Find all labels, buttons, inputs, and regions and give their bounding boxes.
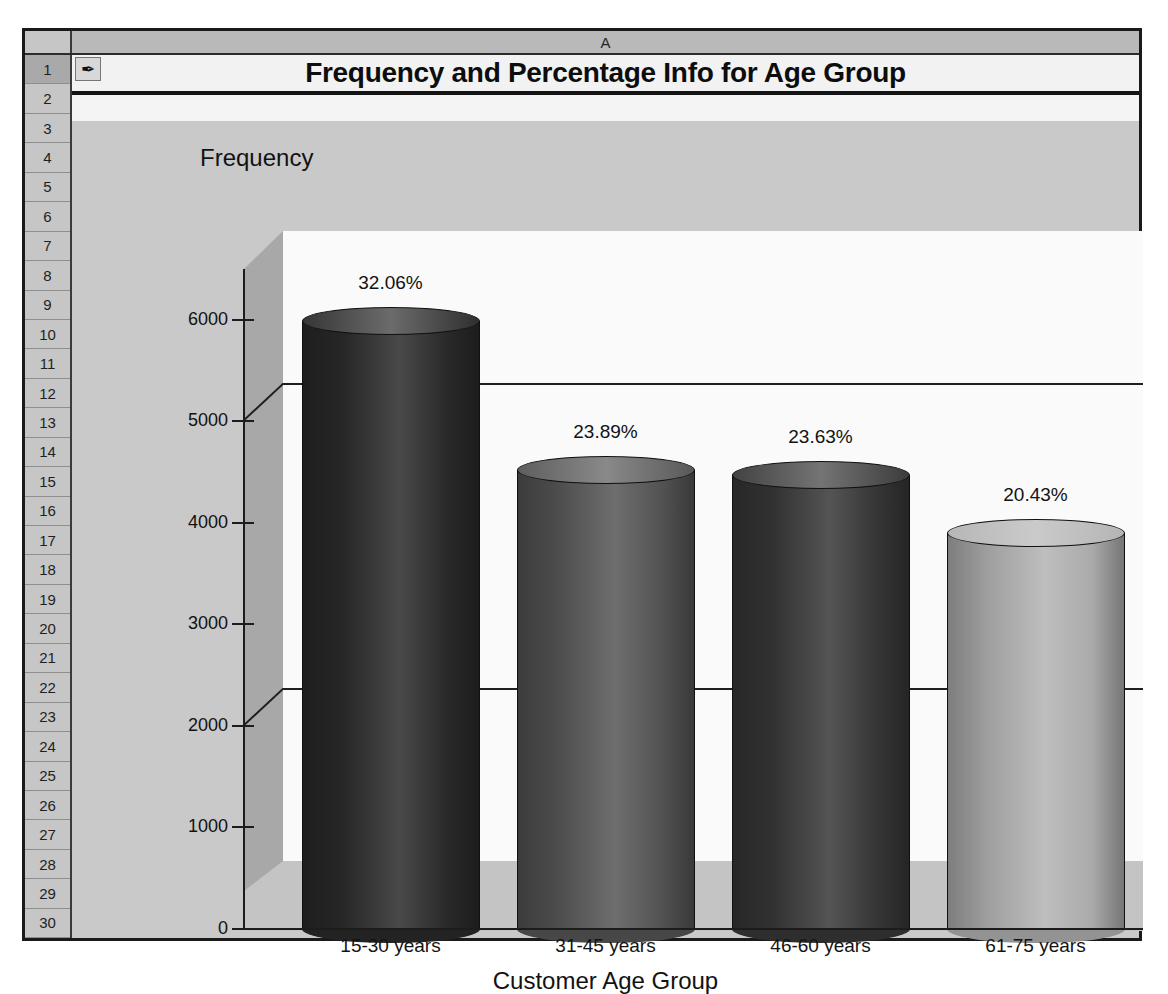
row-header-4[interactable]: 4	[25, 143, 70, 172]
blank-row	[72, 95, 1139, 121]
page-title: Frequency and Percentage Info for Age Gr…	[305, 57, 906, 89]
y-tick-label-3000: 3000	[166, 614, 228, 632]
bar-data-label: 23.63%	[788, 427, 852, 446]
row-header-3[interactable]: 3	[25, 114, 70, 143]
row-header-27[interactable]: 27	[25, 820, 70, 849]
bar-body	[947, 533, 1125, 929]
row-header-22[interactable]: 22	[25, 673, 70, 702]
x-tick-label-1: 31-45 years	[506, 936, 706, 955]
row-header-9[interactable]: 9	[25, 291, 70, 320]
bar-15-30-years[interactable]: 32.06%	[302, 307, 480, 929]
row-header-23[interactable]: 23	[25, 703, 70, 732]
bar-body	[302, 321, 480, 929]
gridline-connector-5000	[243, 383, 284, 423]
row-header-25[interactable]: 25	[25, 762, 70, 791]
row-header-14[interactable]: 14	[25, 438, 70, 467]
y-axis-title: Frequency	[200, 146, 313, 170]
row-header-10[interactable]: 10	[25, 320, 70, 349]
y-axis-line	[243, 269, 245, 929]
row-header-16[interactable]: 16	[25, 497, 70, 526]
row-header-2[interactable]: 2	[25, 84, 70, 113]
y-tick-label-0: 0	[166, 919, 228, 937]
column-header-row: A	[25, 31, 1139, 55]
row-header-6[interactable]: 6	[25, 202, 70, 231]
x-tick-label-0: 15-30 years	[291, 936, 491, 955]
row-header-26[interactable]: 26	[25, 791, 70, 820]
row-header-11[interactable]: 11	[25, 349, 70, 378]
y-tick-label-4000: 4000	[166, 513, 228, 531]
bar-body	[517, 470, 695, 929]
x-axis-title: Customer Age Group	[72, 969, 1139, 993]
spreadsheet-frame: A 12345678910111213141516171819202122232…	[22, 28, 1142, 941]
bar-top-ellipse	[947, 519, 1125, 547]
bar-data-label: 32.06%	[358, 273, 422, 292]
pen-note-icon[interactable]: ✒	[75, 57, 101, 81]
y-tick-label-1000: 1000	[166, 817, 228, 835]
row-header-1[interactable]: 1	[25, 55, 70, 84]
row-header-12[interactable]: 12	[25, 379, 70, 408]
row-header-17[interactable]: 17	[25, 526, 70, 555]
row-header-column: 1234567891011121314151617181920212223242…	[25, 55, 72, 938]
bar-61-75-years[interactable]: 20.43%	[947, 519, 1125, 929]
row-header-20[interactable]: 20	[25, 614, 70, 643]
row-header-13[interactable]: 13	[25, 408, 70, 437]
chart-object[interactable]: Frequency 32.06%23.89%23.63%20.43% 01000…	[72, 121, 1139, 938]
bar-top-ellipse	[517, 456, 695, 484]
x-axis-line	[243, 928, 1143, 930]
bar-data-label: 23.89%	[573, 422, 637, 441]
row-header-8[interactable]: 8	[25, 261, 70, 290]
row-header-18[interactable]: 18	[25, 555, 70, 584]
bar-top-ellipse	[302, 307, 480, 335]
y-tick-label-6000: 6000	[166, 310, 228, 328]
bar-data-label: 20.43%	[1003, 485, 1067, 504]
row-header-28[interactable]: 28	[25, 850, 70, 879]
row-header-15[interactable]: 15	[25, 467, 70, 496]
row-header-24[interactable]: 24	[25, 732, 70, 761]
select-all-corner[interactable]	[25, 31, 72, 53]
sheet-body: ✒ Frequency and Percentage Info for Age …	[72, 55, 1139, 938]
title-cell-row[interactable]: ✒ Frequency and Percentage Info for Age …	[72, 55, 1139, 95]
x-tick-label-2: 46-60 years	[721, 936, 921, 955]
row-header-30[interactable]: 30	[25, 909, 70, 938]
x-tick-label-3: 61-75 years	[936, 936, 1136, 955]
gridline-connector-2000	[243, 688, 284, 728]
row-header-29[interactable]: 29	[25, 879, 70, 908]
plot-left-wall	[244, 231, 283, 891]
row-header-19[interactable]: 19	[25, 585, 70, 614]
y-tick-label-5000: 5000	[166, 411, 228, 429]
row-header-21[interactable]: 21	[25, 644, 70, 673]
y-tick-label-2000: 2000	[166, 716, 228, 734]
column-header-a[interactable]: A	[72, 31, 1139, 53]
bar-46-60-years[interactable]: 23.63%	[732, 461, 910, 929]
bar-31-45-years[interactable]: 23.89%	[517, 456, 695, 929]
row-header-5[interactable]: 5	[25, 173, 70, 202]
bar-body	[732, 475, 910, 929]
bar-top-ellipse	[732, 461, 910, 489]
row-header-7[interactable]: 7	[25, 232, 70, 261]
